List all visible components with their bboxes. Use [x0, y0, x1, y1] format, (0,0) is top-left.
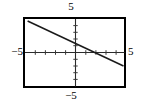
axis-label-right: 5 [128, 46, 142, 57]
axis-label-left: −5 [2, 46, 23, 57]
axis-label-top: 5 [0, 1, 142, 12]
line-graph-figure: 5 −5 −5 5 [0, 0, 142, 105]
axis-label-bottom: −5 [0, 90, 142, 101]
